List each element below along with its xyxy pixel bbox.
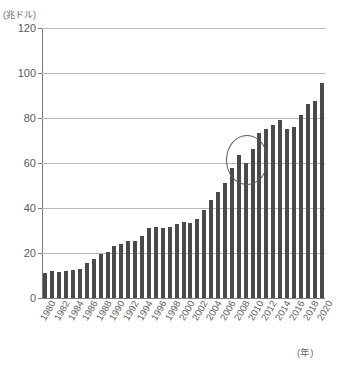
bar-1994 (140, 236, 144, 298)
bar-1992 (126, 241, 130, 298)
bar-2013 (271, 125, 275, 298)
bar-2002 (195, 219, 199, 298)
y-tick-label-100: 100 (18, 68, 36, 79)
bar-2015 (285, 129, 289, 298)
y-tick-label-0: 0 (30, 293, 36, 304)
bar-1982 (57, 272, 61, 298)
bar-2005 (216, 192, 220, 298)
plot-area: 020406080100120 (42, 28, 325, 298)
bar-2012 (264, 129, 268, 298)
bar-2011 (257, 133, 261, 298)
bar-2019 (313, 101, 317, 298)
bar-1980 (43, 273, 47, 298)
bar-2006 (223, 183, 227, 298)
x-axis-unit-label: (年) (297, 345, 313, 359)
bar-2010 (251, 149, 255, 298)
bar-2020 (320, 83, 324, 298)
bar-1998 (168, 227, 172, 298)
x-axis-labels-group: 1980198219841986198819901992199419961998… (42, 299, 325, 345)
clipped-title-strip (0, 0, 341, 6)
bar-2018 (306, 104, 310, 298)
y-tick-label-120: 120 (18, 23, 36, 34)
bar-2017 (299, 115, 303, 298)
bar-1996 (154, 227, 158, 298)
bar-1986 (85, 263, 89, 298)
bar-1990 (112, 246, 116, 298)
bar-1985 (78, 269, 82, 298)
bar-1983 (64, 271, 68, 298)
bars-group (42, 28, 325, 298)
bar-2007 (230, 168, 234, 298)
bar-2000 (182, 222, 186, 298)
bar-2008 (237, 155, 241, 298)
bar-1991 (119, 244, 123, 298)
bar-1989 (106, 252, 110, 298)
bar-1999 (175, 224, 179, 298)
bar-1997 (161, 228, 165, 298)
bar-1987 (92, 259, 96, 298)
gdp-bar-chart: (兆ドル) 020406080100120 198019821984198619… (0, 0, 341, 366)
y-tick-label-60: 60 (24, 158, 36, 169)
bar-2009 (244, 163, 248, 298)
bar-2016 (292, 127, 296, 298)
bar-2014 (278, 120, 282, 298)
bar-1984 (71, 270, 75, 298)
bar-1993 (133, 241, 137, 298)
bar-1981 (50, 271, 54, 298)
bar-2004 (209, 200, 213, 298)
y-tick-label-80: 80 (24, 113, 36, 124)
y-tick-label-40: 40 (24, 203, 36, 214)
bar-1988 (99, 254, 103, 298)
bar-2001 (188, 223, 192, 298)
y-tick-label-20: 20 (24, 248, 36, 259)
bar-1995 (147, 228, 151, 298)
y-axis-unit-label: (兆ドル) (3, 8, 36, 21)
bar-2003 (202, 210, 206, 298)
